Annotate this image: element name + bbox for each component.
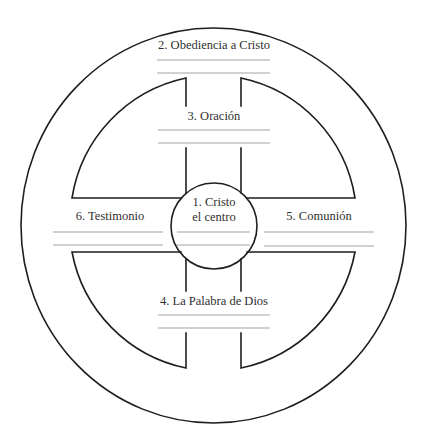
label-palabra-de-dios: 4. La Palabra de Dios (144, 294, 284, 309)
label-cristo-centro: 1. Cristo el centro (174, 195, 254, 225)
label-obediencia: 2. Obediencia a Cristo (144, 38, 284, 53)
label-oracion: 3. Oración (164, 109, 264, 124)
label-comunion: 5. Comunión (264, 209, 374, 224)
write-lines-upper (158, 130, 270, 143)
write-lines-center (177, 232, 250, 245)
quadrant-bottom-right (241, 252, 355, 368)
write-lines-left (53, 232, 163, 245)
quadrant-top-right (241, 78, 355, 198)
label-cristo-line1: 1. Cristo (174, 195, 254, 210)
write-lines-right (264, 232, 374, 246)
quadrant-top-left (72, 78, 186, 198)
outer-circle (21, 28, 406, 423)
label-cristo-line2: el centro (174, 210, 254, 225)
quadrant-bottom-left (72, 252, 186, 368)
write-lines-lower (158, 315, 270, 328)
label-testimonio: 6. Testimonio (55, 209, 165, 224)
write-lines-top (157, 60, 270, 73)
